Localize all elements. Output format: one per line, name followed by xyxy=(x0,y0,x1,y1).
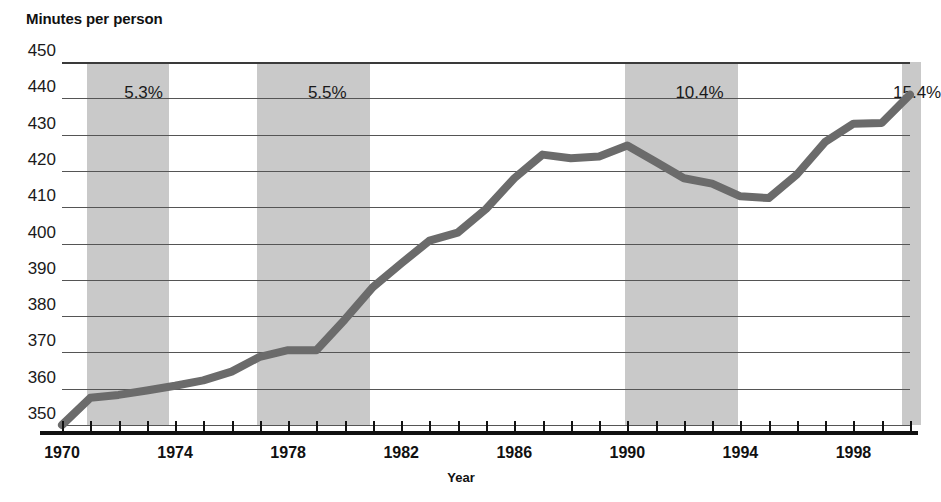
x-axis-tick xyxy=(119,421,121,431)
x-axis-tick-label: 1994 xyxy=(723,444,759,462)
x-axis-tick xyxy=(514,421,516,431)
x-axis-tick xyxy=(260,421,262,431)
x-axis-tick-label: 1970 xyxy=(44,444,80,462)
plot-top-border xyxy=(62,62,910,64)
y-axis-tick-label: 380 xyxy=(28,295,56,315)
x-axis-tick xyxy=(543,421,545,431)
band-percentage-label: 10.4% xyxy=(675,83,723,103)
x-axis-tick xyxy=(373,421,375,431)
x-axis-tick xyxy=(316,421,318,431)
band-percentage-label: 15.4% xyxy=(893,83,941,103)
x-axis-tick-label: 1978 xyxy=(270,444,306,462)
x-axis-tick xyxy=(797,421,799,431)
band-percentage-label: 5.3% xyxy=(124,83,163,103)
x-axis-tick-label: 1982 xyxy=(383,444,419,462)
y-axis-tick-label: 440 xyxy=(28,77,56,97)
gridline xyxy=(62,135,910,136)
x-axis-tick-label: 1986 xyxy=(496,444,532,462)
y-axis-tick-label: 400 xyxy=(28,223,56,243)
x-axis-tick xyxy=(175,421,177,431)
x-axis-tick xyxy=(684,421,686,431)
gridline xyxy=(62,280,910,281)
gridline xyxy=(62,98,910,99)
x-axis-tick xyxy=(90,421,92,431)
x-axis-tick xyxy=(712,421,714,431)
x-axis-tick xyxy=(203,421,205,431)
gridline xyxy=(62,207,910,208)
x-axis-tick xyxy=(486,421,488,431)
x-axis-line xyxy=(40,431,918,435)
y-axis-labels: 450440430420410400390380370360350 xyxy=(0,0,56,502)
y-axis-tick-label: 370 xyxy=(28,331,56,351)
x-axis-tick xyxy=(627,421,629,431)
x-axis-tick-label: 1998 xyxy=(836,444,872,462)
y-axis-tick-label: 390 xyxy=(28,259,56,279)
y-axis-tick-label: 350 xyxy=(28,404,56,424)
x-axis-tick xyxy=(740,421,742,431)
x-axis-tick xyxy=(401,421,403,431)
gridline xyxy=(62,171,910,172)
x-axis-tick xyxy=(656,421,658,431)
x-axis-tick xyxy=(882,421,884,431)
x-axis-tick xyxy=(571,421,573,431)
plot-area xyxy=(62,62,910,425)
x-axis-tick xyxy=(288,421,290,431)
x-axis-tick xyxy=(345,421,347,431)
x-axis-tick xyxy=(769,421,771,431)
gridline xyxy=(62,352,910,353)
y-axis-tick-label: 410 xyxy=(28,186,56,206)
x-axis-tick xyxy=(429,421,431,431)
x-axis-title: Year xyxy=(0,470,922,485)
x-axis-tick-label: 1974 xyxy=(157,444,193,462)
y-axis-tick-label: 430 xyxy=(28,114,56,134)
y-axis-tick-label: 450 xyxy=(28,41,56,61)
y-axis-tick-label: 360 xyxy=(28,368,56,388)
gridline xyxy=(62,244,910,245)
x-axis-tick xyxy=(232,421,234,431)
x-axis-tick xyxy=(147,421,149,431)
x-axis-tick xyxy=(825,421,827,431)
x-axis-tick-label: 1990 xyxy=(610,444,646,462)
y-axis-tick-label: 420 xyxy=(28,150,56,170)
gridline xyxy=(62,389,910,390)
x-axis-tick xyxy=(910,421,912,431)
x-axis-tick xyxy=(853,421,855,431)
x-axis-tick xyxy=(458,421,460,431)
band-percentage-label: 5.5% xyxy=(308,83,347,103)
x-axis-tick xyxy=(62,421,64,431)
x-axis-tick xyxy=(599,421,601,431)
gridline xyxy=(62,316,910,317)
